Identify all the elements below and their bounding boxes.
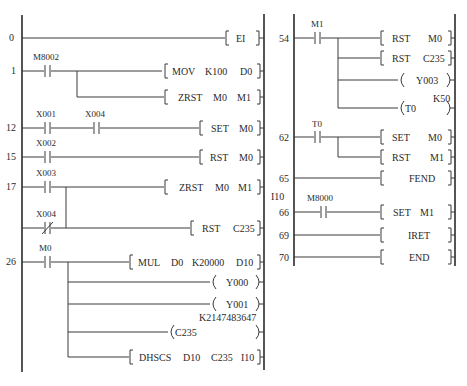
step-number: 0 [9,32,14,43]
operand: M1 [238,182,252,193]
rung-0: 0 EI [9,31,264,45]
no-contact-icon [94,122,99,134]
rung-26: 26 M0 MUL D0 K20000 D10 Y000 Y001 [6,243,264,364]
operand: C235 [233,223,255,234]
no-contact-icon [45,256,50,268]
coil-y003: Y003 [416,75,438,86]
coil-icon [401,73,404,87]
instruction-rst: RST [202,223,220,234]
contact-label: X001 [36,109,56,119]
contact-label: X003 [36,168,56,178]
contact-label: X004 [85,109,105,119]
no-contact-icon [315,32,320,44]
instruction-fend: FEND [409,173,435,184]
rung-66: I10 66 M8000 SET M1 [271,191,455,219]
rung-70: 70 END [279,250,455,264]
operand: M0 [215,182,229,193]
operand: D10 [183,352,200,363]
rung-69: 69 IRET [279,228,455,242]
operand: C235 [211,352,233,363]
operand: D10 [236,257,253,268]
contact-label: M8000 [307,193,334,203]
no-contact-icon [315,131,320,143]
no-contact-icon [45,181,50,193]
instruction-rst: RST [392,152,410,163]
instruction-zrst: ZRST [179,182,203,193]
coil-y001: Y001 [226,299,248,310]
instruction-set: SET [211,123,229,134]
rung-65: 65 FEND [279,171,455,185]
operand: M1 [420,207,434,218]
step-number: 69 [279,230,289,241]
instruction-set: SET [393,207,411,218]
instruction-bracket-open [226,31,229,45]
no-contact-icon [45,122,50,134]
operand: M0 [428,132,442,143]
contact-label: M0 [39,243,52,253]
operand: M0 [239,123,253,134]
instruction-iret: IRET [408,230,430,241]
instruction-end: END [409,252,430,263]
step-number: 65 [279,173,289,184]
step-number: 66 [279,207,289,218]
step-number: 12 [6,122,16,133]
step-number: 26 [6,256,16,267]
contact-label: M8002 [33,52,59,62]
interrupt-pointer-label: I10 [271,191,284,202]
operand: C235 [423,53,445,64]
step-number: 1 [11,65,16,76]
rung-54: 54 M1 RST M0 RST C235 Y003 K50 T0 [279,19,455,115]
coil-y000: Y000 [226,277,248,288]
instruction-set: SET [392,132,410,143]
right-ladder: 54 M1 RST M0 RST C235 Y003 K50 T0 [271,14,455,266]
operand: M0 [213,92,227,103]
no-contact-icon [321,206,326,218]
operand: K100 [205,66,227,77]
instruction-mul: MUL [138,257,160,268]
rung-1: 1 M8002 MOV K100 D0 ZRST M0 M1 [11,52,264,104]
counter-setting: K2147483647 [199,312,256,323]
instruction-ei: EI [236,33,245,44]
instruction-mov: MOV [172,66,196,77]
instruction-dhscs: DHSCS [139,352,171,363]
contact-label: M1 [311,19,324,29]
instruction-rst: RST [210,152,228,163]
step-number: 17 [6,181,16,192]
step-number: 70 [279,252,289,263]
no-contact-icon [45,151,50,163]
instruction-rst: RST [392,53,410,64]
coil-icon [401,101,404,115]
coil-icon [213,297,216,311]
contact-label: T0 [312,119,322,129]
instruction-zrst: ZRST [178,92,202,103]
rung-62: 62 T0 SET M0 RST M1 [279,119,455,164]
coil-icon [171,325,174,339]
ladder-diagram: 0 EI 1 M8002 MOV K100 D0 ZRST M0 M1 [0,0,467,386]
operand: K20000 [192,257,224,268]
instruction-bracket-close [256,31,264,45]
coil-icon [213,275,216,289]
operand: I10 [241,352,254,363]
operand: M1 [237,92,251,103]
coil-c235: C235 [175,327,197,338]
step-number: 15 [6,151,16,162]
step-number: 62 [279,132,289,143]
contact-label: X004 [36,209,56,219]
operand: D0 [240,66,252,77]
operand: M1 [430,152,444,163]
instruction-rst: RST [392,33,410,44]
rung-15: 15 X002 RST M0 [6,138,264,164]
contact-label: X002 [36,138,56,148]
rung-17: 17 X003 ZRST M0 M1 X004 RST C235 [6,168,264,235]
no-contact-icon [45,65,50,77]
operand: D0 [171,257,183,268]
rung-12: 12 X001 X004 SET M0 [6,109,264,135]
left-ladder: 0 EI 1 M8002 MOV K100 D0 ZRST M0 M1 [6,14,264,372]
operand: M0 [239,152,253,163]
step-number: 54 [279,33,289,44]
operand: M0 [428,33,442,44]
coil-t0: T0 [405,103,416,114]
